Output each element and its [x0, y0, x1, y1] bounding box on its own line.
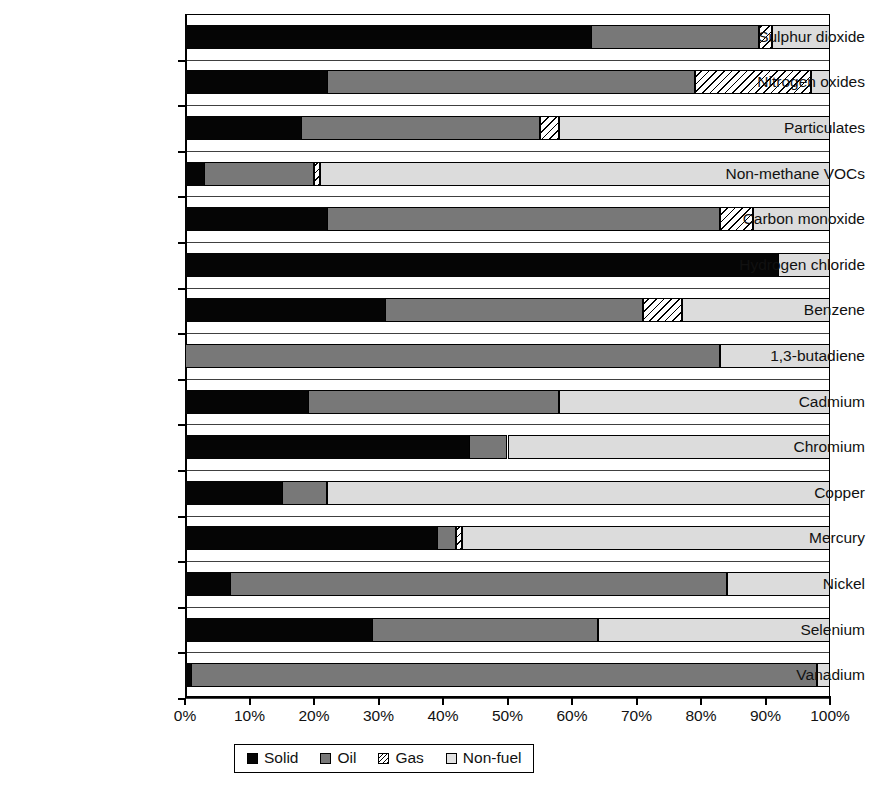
legend-item-gas: Gas: [378, 749, 423, 767]
y-axis-tick: [178, 516, 185, 518]
bar-segment-solid: [185, 526, 437, 550]
y-axis-tick: [178, 288, 185, 290]
legend-label: Oil: [337, 749, 356, 767]
y-axis-label: Selenium: [699, 622, 874, 638]
x-axis-tick: [765, 698, 767, 705]
bar-segment-solid: [185, 435, 469, 459]
y-axis-label: Benzene: [699, 302, 874, 318]
y-axis-label: Hydrogen chloride: [699, 257, 874, 273]
bar-segment-oil: [327, 70, 695, 94]
bar-segment-oil: [308, 390, 560, 414]
x-axis-tick: [313, 698, 315, 705]
legend-item-solid: Solid: [247, 749, 298, 767]
bar-segment-oil: [437, 526, 456, 550]
bar-segment-solid: [185, 390, 308, 414]
y-axis-tick: [178, 379, 185, 381]
row-separator: [185, 516, 830, 517]
bar-segment-oil: [469, 435, 508, 459]
x-axis-tick-label: 20%: [284, 707, 344, 724]
y-axis-label: Vanadium: [699, 667, 874, 683]
x-axis-tick-label: 40%: [413, 707, 473, 724]
y-axis-label: Copper: [699, 485, 874, 501]
row-separator: [185, 60, 830, 61]
bar-segment-oil: [385, 298, 643, 322]
bar-segment-solid: [185, 207, 327, 231]
bar-segment-solid: [185, 481, 282, 505]
x-axis-tick-label: 50%: [478, 707, 538, 724]
y-axis-tick: [178, 424, 185, 426]
x-axis-tick-label: 90%: [736, 707, 796, 724]
legend-label: Non-fuel: [463, 749, 522, 767]
row-separator: [185, 196, 830, 197]
stacked-bar-chart: Sulphur dioxideNitrogen oxidesParticulat…: [0, 0, 874, 794]
x-axis-tick-label: 100%: [800, 707, 860, 724]
bar-segment-solid: [185, 253, 778, 277]
bar-segment-oil: [301, 116, 540, 140]
y-axis-tick: [178, 607, 185, 609]
bar-segment-solid: [185, 116, 301, 140]
legend-swatch-nonfuel-icon: [446, 753, 457, 764]
legend-swatch-solid-icon: [247, 753, 258, 764]
x-axis-tick-label: 70%: [607, 707, 667, 724]
x-axis-tick: [571, 698, 573, 705]
bar-segment-oil: [372, 618, 598, 642]
bar-segment-oil: [327, 207, 720, 231]
row-separator: [185, 470, 830, 471]
row-separator: [185, 607, 830, 608]
row-separator: [185, 242, 830, 243]
y-axis-tick: [178, 242, 185, 244]
row-separator: [185, 561, 830, 562]
x-axis-tick: [184, 698, 186, 705]
bar-segment-solid: [185, 162, 204, 186]
bar-segment-solid: [185, 25, 591, 49]
row-separator: [185, 288, 830, 289]
x-axis-tick: [378, 698, 380, 705]
y-axis-label: Nitrogen oxides: [699, 74, 874, 90]
legend-label: Solid: [264, 749, 298, 767]
bar-segment-solid: [185, 618, 372, 642]
bar-segment-oil: [204, 162, 314, 186]
y-axis-label: 1,3-butadiene: [699, 348, 874, 364]
legend-item-oil: Oil: [320, 749, 356, 767]
bar-segment-gas: [643, 298, 682, 322]
chart-legend: SolidOilGasNon-fuel: [234, 744, 534, 773]
x-axis-tick: [700, 698, 702, 705]
x-axis-tick-label: 80%: [671, 707, 731, 724]
legend-item-non-fuel: Non-fuel: [446, 749, 522, 767]
row-separator: [185, 652, 830, 653]
bar-segment-solid: [185, 70, 327, 94]
y-axis-tick: [178, 561, 185, 563]
y-axis-tick: [178, 105, 185, 107]
bar-segment-oil: [282, 481, 327, 505]
x-axis-tick: [507, 698, 509, 705]
y-axis-label: Non-methane VOCs: [699, 166, 874, 182]
row-separator: [185, 105, 830, 106]
bar-segment-solid: [185, 298, 385, 322]
y-axis-label: Particulates: [699, 120, 874, 136]
y-axis-label: Sulphur dioxide: [699, 29, 874, 45]
y-axis-tick: [178, 470, 185, 472]
y-axis-tick: [178, 652, 185, 654]
bar-segment-oil: [185, 344, 720, 368]
x-axis-tick-label: 10%: [220, 707, 280, 724]
x-axis-tick: [829, 698, 831, 705]
y-axis-label: Mercury: [699, 530, 874, 546]
legend-swatch-gas-icon: [378, 753, 389, 764]
y-axis-tick: [178, 151, 185, 153]
row-separator: [185, 333, 830, 334]
bar-segment-gas: [540, 116, 559, 140]
y-axis-tick: [178, 196, 185, 198]
x-axis-tick: [442, 698, 444, 705]
y-axis-label: Carbon monoxide: [699, 211, 874, 227]
x-axis-tick-label: 0%: [155, 707, 215, 724]
bar-segment-oil: [230, 572, 727, 596]
bar-segment-solid: [185, 572, 230, 596]
row-separator: [185, 151, 830, 152]
y-axis-label: Cadmium: [699, 394, 874, 410]
x-axis-tick-label: 30%: [349, 707, 409, 724]
y-axis-label: Chromium: [699, 439, 874, 455]
x-axis-tick-label: 60%: [542, 707, 602, 724]
y-axis-tick: [178, 333, 185, 335]
row-separator: [185, 424, 830, 425]
x-axis-tick: [636, 698, 638, 705]
